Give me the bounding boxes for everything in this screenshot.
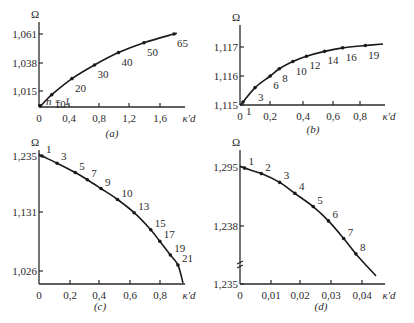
x-axis-label: κ'd <box>182 112 196 124</box>
point-label: 1 <box>46 143 52 155</box>
y-axis-label: Ω <box>31 8 39 20</box>
data-point <box>158 240 162 244</box>
data-point <box>172 32 176 36</box>
point-label: 9 <box>105 176 111 188</box>
point-label: 10 <box>122 187 133 199</box>
point-label: 8 <box>360 241 366 253</box>
y-tick-label: 1,295 <box>213 161 238 173</box>
x-tick-label: 0,04 <box>352 289 372 301</box>
x-tick-label: 0,8 <box>92 112 106 124</box>
y-tick-label: 1,235 <box>12 150 37 162</box>
data-point <box>243 166 247 170</box>
y-tick-label: 1,116 <box>214 70 239 82</box>
point-label: 2 <box>265 161 271 173</box>
data-point <box>305 54 309 58</box>
x-tick-label: 0,8 <box>153 289 167 301</box>
x-tick-label: 0,2 <box>263 110 277 122</box>
point-label: 65 <box>177 37 189 49</box>
data-point <box>291 60 295 64</box>
point-label: 12 <box>309 59 320 71</box>
y-tick-label: 1,115 <box>214 99 239 111</box>
x-tick-label: 0 <box>36 112 42 124</box>
x-tick-label: 0 <box>237 289 243 301</box>
data-point <box>86 178 90 182</box>
point-label: 15 <box>155 217 167 229</box>
point-label: 3 <box>61 150 67 162</box>
x-tick-label: 1,2 <box>122 112 136 124</box>
x-tick-label: 0,6 <box>123 289 137 301</box>
x-tick-label: 0,8 <box>353 110 367 122</box>
point-label: 5 <box>317 194 323 206</box>
data-point <box>277 67 281 71</box>
point-label: 13 <box>138 200 150 212</box>
x-axis-label: κ'd <box>382 289 396 301</box>
point-label: 50 <box>147 46 159 58</box>
n-annotation: n = 1 <box>46 95 70 107</box>
point-label: 1 <box>246 105 252 117</box>
data-point <box>142 41 146 45</box>
data-point <box>278 181 282 185</box>
point-label: 16 <box>346 51 358 63</box>
data-point <box>93 63 97 67</box>
point-label: 21 <box>182 252 193 264</box>
y-tick-label: 1,015 <box>12 85 37 97</box>
y-tick-label: 1,026 <box>12 265 37 277</box>
data-point <box>293 192 297 196</box>
point-label: 40 <box>122 56 134 68</box>
x-tick-label: 1,6 <box>153 112 167 124</box>
data-point <box>323 50 327 54</box>
x-axis-label: κ'd <box>182 289 196 301</box>
panel-caption: (c) <box>94 300 107 313</box>
data-point <box>132 211 136 215</box>
point-label: 3 <box>284 169 290 181</box>
y-tick-label: 1,238 <box>213 220 238 232</box>
panel-caption: (b) <box>307 123 320 136</box>
panel-caption: (d) <box>315 300 328 313</box>
data-point <box>99 187 103 191</box>
data-point <box>241 100 245 104</box>
data-curve <box>240 166 376 276</box>
data-point <box>354 252 358 256</box>
data-point <box>268 74 272 78</box>
data-point <box>169 253 173 257</box>
x-tick-label: 0 <box>237 110 243 122</box>
y-axis-label: Ω <box>232 11 240 23</box>
data-point <box>116 198 120 202</box>
point-label: 6 <box>273 79 279 91</box>
data-point <box>39 104 43 108</box>
x-tick-label: 0,6 <box>326 110 340 122</box>
point-label: 4 <box>299 180 305 192</box>
point-label: 14 <box>328 54 340 66</box>
x-tick-label: 0,02 <box>290 289 309 301</box>
y-tick-label: 1,038 <box>12 57 37 69</box>
chart-panel-d: Ωκ'd1,2351,2381,29500,010,020,030,041234… <box>213 136 396 313</box>
point-label: 30 <box>98 68 110 80</box>
y-axis-label: Ω <box>232 136 240 148</box>
chart-panel-a: Ωκ'd1,0151,0381,06100,40,81,21,610203040… <box>12 8 196 140</box>
data-point <box>341 46 345 50</box>
y-tick-label: 1,117 <box>214 41 239 53</box>
x-tick-label: 0,4 <box>62 112 76 124</box>
point-label: 1 <box>249 155 255 167</box>
x-tick-label: 0,01 <box>261 289 280 301</box>
point-label: 6 <box>332 208 338 220</box>
x-axis-label: κ'd <box>382 110 396 122</box>
y-tick-label: 1,235 <box>213 278 238 290</box>
data-point <box>364 44 368 48</box>
point-label: 3 <box>258 91 264 103</box>
x-tick-label: 0 <box>36 289 42 301</box>
point-label: 19 <box>368 49 380 61</box>
data-point <box>176 263 180 267</box>
y-axis-label: Ω <box>31 136 39 148</box>
data-point <box>55 161 59 165</box>
x-tick-label: 0,4 <box>296 110 310 122</box>
point-label: 17 <box>164 228 176 240</box>
point-label: 20 <box>75 82 87 94</box>
data-point <box>260 172 264 176</box>
figure-panels: Ωκ'd1,0151,0381,06100,40,81,21,610203040… <box>0 0 414 323</box>
y-tick-label: 1,061 <box>12 28 37 40</box>
data-point <box>327 219 331 223</box>
point-label: 10 <box>296 65 308 77</box>
chart-panel-b: Ωκ'd1,1151,1161,11700,20,40,60,813681012… <box>214 11 396 136</box>
point-label: 5 <box>79 160 85 172</box>
